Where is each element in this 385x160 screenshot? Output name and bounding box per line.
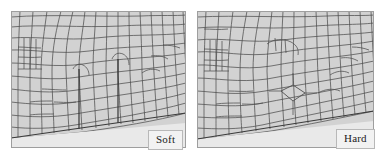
figure-container: Soft Hard [0,0,385,160]
panel-label-hard: Hard [336,129,375,149]
mesh-drawing-soft [11,11,186,148]
mesh-panel-soft [11,11,186,148]
mesh-drawing-hard [197,11,374,148]
panel-label-soft: Soft [148,130,183,150]
mesh-panel-hard [197,11,374,148]
